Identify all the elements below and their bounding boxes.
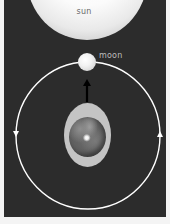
earth-globe <box>69 117 106 157</box>
earth-to-moon-arrow-head-icon <box>83 79 91 86</box>
orbit-arrow-right-up-icon <box>157 131 163 137</box>
diagram-canvas: sun moon <box>0 0 170 224</box>
moon <box>78 53 96 71</box>
orbit-arrow-left-down-icon <box>13 131 19 137</box>
moon-label: moon <box>99 51 122 60</box>
